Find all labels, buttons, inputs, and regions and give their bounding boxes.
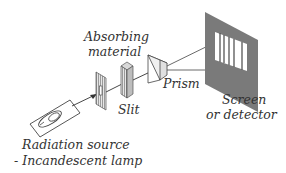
label-material: material <box>88 45 141 58</box>
label-radiation-source: Radiation source <box>22 138 130 151</box>
label-slit: Slit <box>118 103 140 116</box>
label-or-detector: or detector <box>206 108 277 121</box>
label-prism: Prism <box>163 77 200 90</box>
label-absorbing: Absorbing <box>84 30 149 43</box>
label-incandescent-lamp: - Incandescent lamp <box>14 154 142 167</box>
absorbing-material <box>121 62 133 98</box>
label-screen: Screen <box>222 93 266 106</box>
slit-plate <box>96 72 106 110</box>
